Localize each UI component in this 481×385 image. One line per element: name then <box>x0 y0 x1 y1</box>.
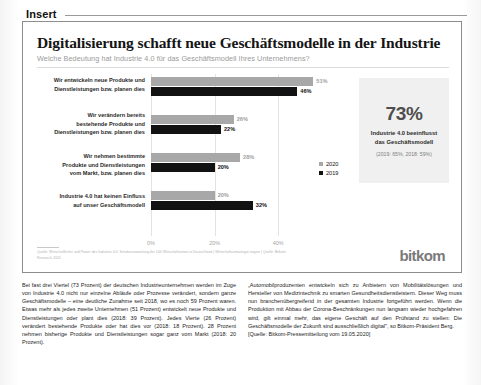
callout-line-2: das Geschäftsmodell <box>375 138 433 147</box>
category-label: Wir verändern bereitsbestehende Produkte… <box>33 111 145 137</box>
bar-value-label-2020: 51% <box>316 78 327 84</box>
legend-label: 2020 <box>326 161 338 167</box>
source-text: Quelle: Wirtschaftlicher und Power des I… <box>37 250 286 260</box>
legend-item-2020: 2020 <box>319 161 338 167</box>
bars-area: 51%46%26%22%28%20%20%32% <box>151 74 326 236</box>
article-right-text: „Automobilproduzenten entwickeln sich zu… <box>248 282 462 329</box>
bar-2019 <box>151 87 297 96</box>
article-citation: [Quelle: Bitkom-Pressemitteilung vom 19.… <box>248 331 370 337</box>
category-label: Industrie 4.0 hat keinen Einflussauf uns… <box>33 192 145 209</box>
chart-subtitle: Welche Bedeutung hat Industrie 4.0 für d… <box>37 54 447 63</box>
bar-value-label-2020: 26% <box>237 116 248 122</box>
article-column-right: „Automobilproduzenten entwickeln sich zu… <box>248 281 462 377</box>
bar-value-label-2020: 20% <box>218 192 229 198</box>
insert-label: Insert <box>0 8 57 22</box>
chart-panel-inner: Digitalisierung schafft neue Geschäftsmo… <box>23 22 461 272</box>
x-tick-label: 0% <box>147 240 155 246</box>
chart-source-note: Quelle: Wirtschaftlicher und Power des I… <box>37 247 297 261</box>
callout-line-1: Industrie 4.0 beeinflusst <box>371 129 437 138</box>
insert-header-band: Insert <box>0 0 481 22</box>
callout-percent: 73% <box>386 104 423 123</box>
source-divider <box>37 247 59 248</box>
chart-legend: 20202019 <box>319 161 338 179</box>
category-label: Wir entwickeln neue Produkte undDienstle… <box>33 76 145 93</box>
bar-value-label-2019: 20% <box>218 164 229 170</box>
legend-label: 2019 <box>326 170 338 176</box>
title-divider <box>37 67 449 68</box>
legend-item-2019: 2019 <box>319 170 338 176</box>
callout-note: (2019: 65%, 2018: 59%) <box>376 151 432 157</box>
legend-swatch <box>319 162 323 166</box>
article-column-left: Bei fast drei Viertel (73 Prozent) der d… <box>22 281 236 377</box>
gridline <box>278 74 279 236</box>
bitkom-logo: bitkom <box>399 247 445 264</box>
x-tick-label: 40% <box>273 240 284 246</box>
bar-2020 <box>151 191 215 200</box>
category-label: Wir nehmen bestimmteProdukte und Dienstl… <box>33 152 145 178</box>
category-label-column: Wir entwickeln neue Produkte undDienstle… <box>37 74 149 234</box>
legend-swatch <box>319 171 323 175</box>
x-tick-label: 20% <box>209 240 220 246</box>
chart-title: Digitalisierung schafft neue Geschäftsmo… <box>37 34 447 51</box>
bar-value-label-2019: 32% <box>256 202 267 208</box>
bar-2020 <box>151 153 240 162</box>
bar-2019 <box>151 163 215 172</box>
bar-value-label-2020: 28% <box>243 154 254 160</box>
bar-2020 <box>151 77 313 86</box>
article-text-block: Bei fast drei Viertel (73 Prozent) der d… <box>22 281 462 377</box>
bar-value-label-2019: 22% <box>224 126 235 132</box>
chart-panel: Digitalisierung schafft neue Geschäftsmo… <box>22 21 462 273</box>
highlight-callout: 73% Industrie 4.0 beeinflusst das Geschä… <box>359 78 449 183</box>
bar-2019 <box>151 201 253 210</box>
header-divider <box>65 15 467 16</box>
bar-value-label-2019: 46% <box>300 88 311 94</box>
bar-2019 <box>151 125 221 134</box>
bar-2020 <box>151 115 234 124</box>
